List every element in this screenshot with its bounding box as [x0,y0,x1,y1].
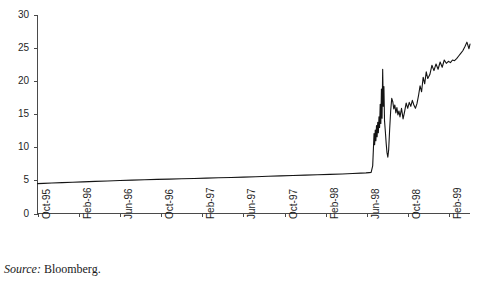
chart-figure: 051015202530 Oct-95Feb-96Jun-96Oct-96Feb… [0,0,479,284]
y-tick-label: 20 [3,76,29,86]
y-tick-label: 0 [3,209,29,219]
x-tick-label: Jun-97 [247,188,257,219]
y-tick-label: 10 [3,142,29,152]
x-tick-label: Feb-98 [330,187,340,219]
x-tick-label: Feb-97 [206,187,216,219]
y-tick-marks [34,16,38,215]
source-label: Source: [4,262,41,276]
x-tick-label: Oct-98 [412,188,422,218]
x-tick-label: Jun-96 [124,188,134,219]
series-line [38,42,471,183]
y-tick-label: 15 [3,109,29,119]
data-series-group [38,42,471,183]
axes [38,15,471,214]
x-tick-label: Oct-97 [289,188,299,218]
x-tick-label: Feb-96 [83,187,93,219]
y-tick-label: 25 [3,43,29,53]
y-tick-label: 30 [3,10,29,20]
source-note: Source: Bloomberg. [4,262,101,277]
x-tick-label: Oct-96 [165,188,175,218]
x-tick-label: Feb-99 [453,187,463,219]
x-tick-marks [39,214,450,218]
y-tick-label: 5 [3,175,29,185]
x-tick-label: Jun-98 [371,188,381,219]
plot-area [0,0,479,284]
source-value: Bloomberg. [44,262,101,276]
x-tick-label: Oct-95 [42,188,52,218]
